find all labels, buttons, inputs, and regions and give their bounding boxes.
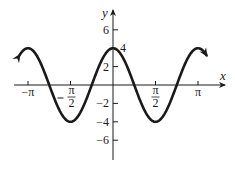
y-tick-label: 6 bbox=[103, 23, 109, 37]
svg-text:2: 2 bbox=[153, 96, 159, 110]
y-tick-label: −6 bbox=[96, 133, 109, 147]
x-tick-label: π2 bbox=[152, 83, 160, 110]
cosine-graph: x y −ππ2π2π 62−2−4−6 4 bbox=[0, 0, 235, 172]
x-tick-label: π2 bbox=[57, 83, 75, 110]
svg-text:π: π bbox=[152, 83, 158, 97]
y-tick-label: −4 bbox=[96, 115, 109, 129]
y-tick-label: 2 bbox=[103, 60, 109, 74]
x-tick-label: −π bbox=[22, 85, 35, 99]
max-value-annotation: 4 bbox=[120, 41, 126, 55]
x-axis-label: x bbox=[219, 68, 226, 83]
svg-text:π: π bbox=[68, 83, 74, 97]
y-axis-label: y bbox=[100, 5, 108, 20]
y-tick-label: −2 bbox=[96, 96, 109, 110]
x-tick-label: π bbox=[195, 85, 201, 99]
svg-text:2: 2 bbox=[68, 96, 74, 110]
